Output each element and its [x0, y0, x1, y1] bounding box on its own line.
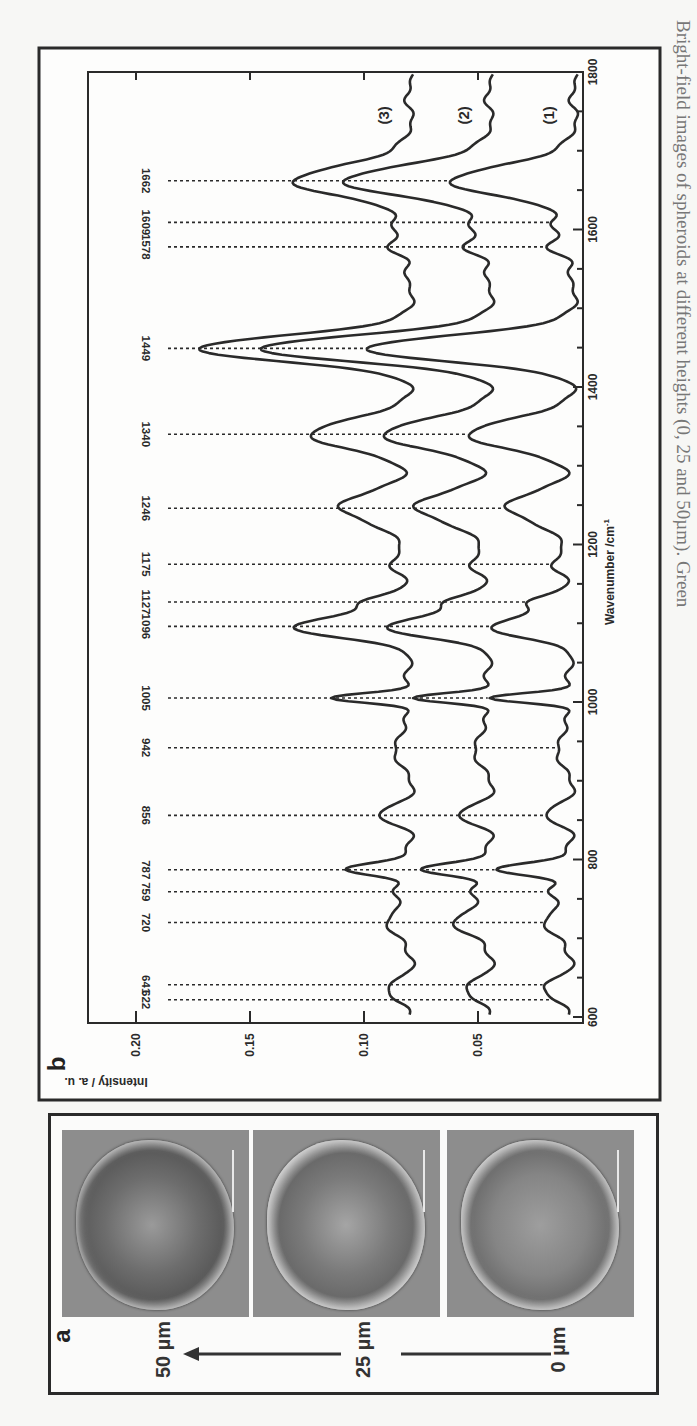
- panel-b-letter: b: [43, 1057, 71, 1072]
- peak-label: 787: [140, 860, 152, 879]
- series-label: (1): [540, 106, 557, 124]
- peak-label: 1096: [140, 614, 152, 640]
- peak-label: 641: [140, 975, 152, 995]
- figure-caption: Bright-field images of spheroids at diff…: [668, 0, 697, 1426]
- y-axis-title: Intensity / a. u.: [64, 1075, 147, 1089]
- peak-label: 1127: [140, 590, 152, 615]
- peak-label: 1005: [140, 685, 152, 711]
- series-label: (2): [455, 106, 472, 124]
- y-tick-label: 0.05: [471, 1033, 485, 1057]
- y-tick-label: 0.10: [357, 1033, 371, 1057]
- peak-label: 759: [140, 882, 152, 901]
- x-tick-label: 1800: [586, 58, 600, 85]
- peak-label: 720: [140, 913, 152, 932]
- x-tick-label: 1000: [586, 688, 600, 715]
- peak-label: 856: [140, 806, 152, 825]
- x-tick-label: 1200: [586, 531, 600, 558]
- peak-label: 1246: [140, 495, 152, 521]
- series-label: (3): [375, 106, 392, 124]
- peak-label: 1662: [140, 168, 152, 194]
- panel-b-frame: [39, 48, 660, 1100]
- peak-label: 1175: [140, 552, 152, 578]
- caption-text: Bright-field images of spheroids at diff…: [668, 0, 697, 607]
- x-tick-label: 800: [586, 849, 600, 869]
- x-tick-label: 1600: [586, 216, 600, 243]
- peak-label: 1340: [140, 421, 152, 447]
- y-tick-label: 0.20: [129, 1033, 143, 1057]
- peak-label: 942: [140, 738, 152, 757]
- peak-label: 1609: [140, 210, 152, 236]
- peak-label: 1449: [140, 336, 152, 362]
- depth-arrow: [51, 1116, 662, 1398]
- y-tick-label: 0.15: [243, 1033, 257, 1057]
- peak-label: 1578: [140, 234, 152, 260]
- x-tick-label: 600: [586, 1007, 600, 1027]
- x-axis-title: Wavenumber /cm-1: [602, 519, 617, 626]
- x-tick-label: 1400: [586, 373, 600, 400]
- panel-a-frame: a 50 µm 25 µm 0 µm: [48, 1113, 659, 1395]
